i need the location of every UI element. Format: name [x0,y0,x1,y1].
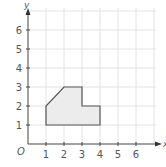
x-tick-label: 4 [97,149,103,160]
x-tick-label: 2 [61,149,67,160]
y-tick-label: 6 [16,25,22,36]
coordinate-grid-diagram: x y O 123456 123456 [0,0,166,167]
x-tick-label: 6 [133,149,139,160]
x-axis-arrow-icon [155,142,162,147]
y-tick-label: 1 [16,120,22,131]
x-tick-label: 5 [115,149,121,160]
x-tick-label: 3 [79,149,85,160]
y-tick-label: 4 [16,63,22,74]
x-tick-labels: 123456 [43,149,139,160]
x-tick-label: 1 [43,149,49,160]
x-axis-label: x [162,139,166,149]
y-tick-labels: 123456 [16,25,22,131]
y-tick-label: 2 [16,101,22,112]
y-tick-label: 3 [16,82,22,93]
origin-label: O [17,146,25,157]
y-axis-label: y [23,0,30,10]
y-tick-label: 5 [16,44,22,55]
shaded-polygon [46,87,100,125]
